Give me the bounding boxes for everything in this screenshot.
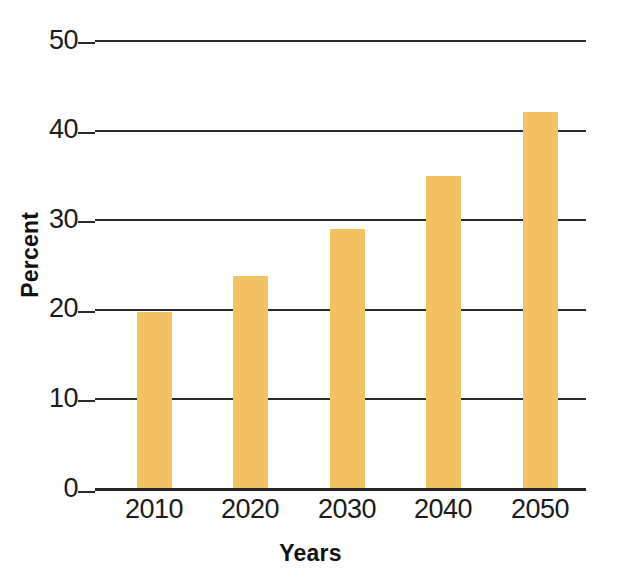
x-axis-tick-label-2050: 2050	[511, 496, 569, 523]
tick-stub-30	[78, 221, 95, 223]
tick-stub-50	[78, 42, 95, 44]
plot-area	[95, 40, 586, 488]
bar-2040	[426, 176, 461, 488]
tick-stub-10	[78, 400, 95, 402]
bar-2030	[330, 229, 365, 488]
x-axis-tick-label-2030: 2030	[318, 496, 376, 523]
tick-stub-40	[78, 132, 95, 134]
x-axis-title: Years	[0, 540, 621, 567]
y-axis-tick-label-40: 40	[49, 116, 78, 143]
bar-2010	[137, 312, 172, 488]
gridline-50	[95, 40, 586, 42]
y-axis-tick-label-0: 0	[63, 475, 78, 502]
x-axis-tick-label-2020: 2020	[221, 496, 279, 523]
y-axis-tick-label-20: 20	[49, 295, 78, 322]
y-axis-title: Percent	[17, 212, 44, 298]
tick-stub-0	[78, 491, 95, 493]
bar-chart-figure: 50 40 30 20 10 0 2010	[0, 0, 621, 579]
y-axis-tick-label-50: 50	[49, 27, 78, 54]
y-axis-tick-label-10: 10	[49, 385, 78, 412]
y-axis-tick-label-30: 30	[49, 206, 78, 233]
gridline-40	[95, 130, 586, 132]
tick-stub-20	[78, 311, 95, 313]
bar-2050	[523, 112, 558, 488]
axis-baseline-0	[95, 488, 586, 491]
bar-2020	[233, 276, 268, 488]
x-axis-tick-label-2010: 2010	[125, 496, 183, 523]
gridline-30	[95, 219, 586, 221]
x-axis-tick-label-2040: 2040	[414, 496, 472, 523]
